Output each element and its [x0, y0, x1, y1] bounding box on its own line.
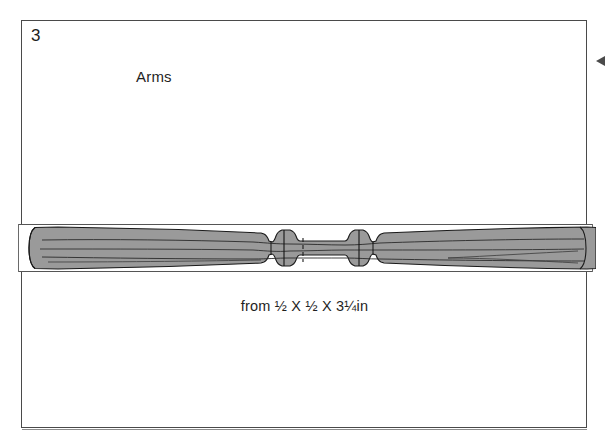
figure-number: 3 [31, 27, 41, 44]
spindle-body [29, 227, 596, 269]
margin-pointer-icon [596, 56, 605, 66]
figure-page: 3 Arms [0, 0, 609, 443]
figure-caption: from ½ X ½ X 3¼in [0, 298, 609, 314]
arm-turning-drawing [18, 218, 596, 280]
figure-title: Arms [136, 68, 172, 85]
